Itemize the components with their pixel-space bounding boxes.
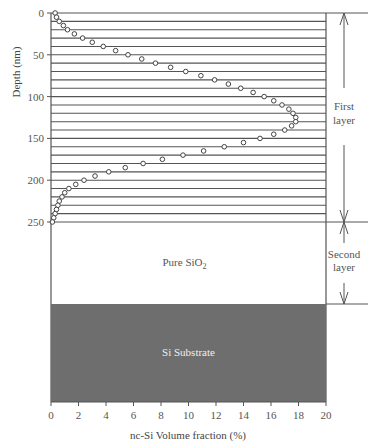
y-axis: 050100150200250 [28,7,52,228]
data-point [80,36,85,41]
data-point [65,27,70,32]
data-point [60,195,65,200]
data-markers [50,11,298,225]
x-tick-label: 6 [131,409,137,421]
y-tick-label: 50 [33,49,45,61]
si-substrate-region: Si Substrate [51,304,326,402]
data-point [82,178,87,183]
x-tick-label: 18 [293,409,305,421]
data-point [101,44,106,49]
data-point [289,124,294,129]
data-point [282,128,287,133]
data-point [241,140,246,145]
x-tick-label: 20 [321,409,333,421]
data-point [90,40,95,45]
data-point [126,53,131,58]
substrate-label: Si Substrate [162,346,215,358]
y-tick-label: 200 [28,174,45,186]
depth-profile-chart: Si Substrate 050100150200250 02468101214… [0,0,377,446]
x-tick-label: 12 [211,409,222,421]
data-point [141,161,146,166]
x-tick-label: 0 [48,409,54,421]
data-point [93,174,98,179]
data-point [139,57,144,62]
data-point [183,69,188,74]
x-tick-label: 16 [266,409,278,421]
data-point [212,78,217,83]
data-point [106,170,111,175]
x-tick-label: 2 [76,409,82,421]
y-tick-label: 250 [28,216,45,228]
data-point [262,94,267,99]
sio2-label: Pure SiO2 [162,256,206,271]
data-point [73,182,78,187]
second-layer-label: Second [328,248,361,260]
y-tick-label: 100 [28,91,45,103]
x-tick-label: 14 [238,409,250,421]
data-point [61,23,66,28]
data-point [113,48,118,53]
data-point [168,65,173,70]
data-point [258,136,263,141]
data-point [62,190,67,195]
y-tick-label: 150 [28,132,45,144]
second-layer-label: layer [333,261,355,273]
y-axis-title: Depth (nm) [10,46,23,97]
data-point [271,132,276,137]
x-tick-label: 8 [158,409,164,421]
layer-annotations: Pure SiO2FirstlayerSecondlayer [162,13,360,304]
data-point [160,157,165,162]
x-axis-title: nc-Si Volume fraction (%) [130,429,246,442]
data-point [280,103,285,108]
data-point [271,98,276,103]
data-point [287,107,292,112]
data-point [291,111,296,116]
x-axis: 02468101214161820 [48,402,332,421]
data-point [222,144,227,149]
data-point [201,149,206,154]
data-point [251,90,256,95]
first-layer-label: First [334,100,354,112]
data-point [293,119,298,124]
data-point [57,19,62,24]
data-point [181,153,186,158]
data-point [238,86,243,91]
data-point [199,73,204,78]
x-tick-label: 4 [103,409,109,421]
data-point [123,165,128,170]
data-point [153,61,158,66]
data-point [67,186,72,191]
data-point [226,82,231,87]
y-tick-label: 0 [39,7,45,19]
data-point [72,32,77,37]
first-layer-label: layer [333,114,355,126]
data-point [54,15,59,20]
x-tick-label: 10 [183,409,195,421]
